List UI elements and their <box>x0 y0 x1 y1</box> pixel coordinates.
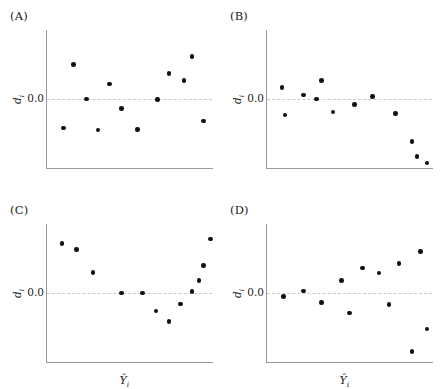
data-point <box>178 302 183 307</box>
y-axis-symbol-subscript: i <box>237 95 246 97</box>
y-axis-symbol-base: d <box>231 291 243 298</box>
plot-area <box>47 224 212 362</box>
panel-c: (C)di0.0Ŷi <box>0 194 220 389</box>
x-axis-symbol-base: Ŷ <box>120 374 127 387</box>
x-axis-symbol-subscript: i <box>127 380 129 389</box>
data-point <box>410 349 415 354</box>
data-point <box>360 266 365 271</box>
y-axis-symbol-subscript: i <box>17 289 26 291</box>
y-axis-zero-tick: 0.0 <box>247 286 264 298</box>
data-point <box>91 270 96 275</box>
data-point <box>301 93 306 98</box>
data-point <box>197 278 202 283</box>
data-point <box>96 128 101 133</box>
panel-b: (B)di0.0 <box>220 0 440 195</box>
data-point <box>393 111 398 116</box>
y-axis-label: di0.0 <box>224 286 264 301</box>
data-point <box>283 113 288 118</box>
zero-reference-line <box>47 293 212 294</box>
x-axis-symbol-base: Ŷ <box>340 374 347 387</box>
data-point <box>119 106 124 111</box>
data-point <box>377 271 382 276</box>
data-point <box>201 119 206 124</box>
y-axis-zero-tick: 0.0 <box>27 92 44 104</box>
x-axis-label: Ŷi <box>340 374 350 389</box>
zero-reference-line <box>267 293 432 294</box>
data-point <box>410 139 415 144</box>
data-point <box>347 311 352 316</box>
data-point <box>301 289 306 294</box>
residual-plots-figure: (A)di0.0(B)di0.0(C)di0.0Ŷi(D)di0.0Ŷi <box>0 0 440 389</box>
data-point <box>415 154 420 159</box>
y-axis-symbol-base: d <box>11 97 23 104</box>
data-point <box>107 82 112 87</box>
y-axis-symbol-subscript: i <box>17 95 26 97</box>
plot-area <box>267 30 432 168</box>
x-axis-label: Ŷi <box>120 374 130 389</box>
data-point <box>119 291 124 296</box>
x-axis-line <box>46 362 213 363</box>
data-point <box>167 71 172 76</box>
x-axis-line <box>266 362 433 363</box>
y-axis-zero-tick: 0.0 <box>27 286 44 298</box>
data-point <box>167 319 172 324</box>
panel-a: (A)di0.0 <box>0 0 220 195</box>
data-point <box>60 241 65 246</box>
data-point <box>135 127 140 132</box>
data-point <box>281 294 286 299</box>
zero-reference-line <box>267 99 432 100</box>
plot-area <box>267 224 432 362</box>
zero-reference-line <box>47 99 212 100</box>
y-axis-symbol-base: d <box>231 97 243 104</box>
data-point <box>280 85 285 90</box>
y-axis-symbol: di <box>11 95 26 104</box>
data-point <box>140 291 145 296</box>
data-point <box>418 249 423 254</box>
data-point <box>314 97 319 102</box>
data-point <box>208 237 213 242</box>
data-point <box>339 278 344 283</box>
y-axis-label: di0.0 <box>224 92 264 107</box>
data-point <box>331 110 336 115</box>
y-axis-zero-tick: 0.0 <box>247 92 264 104</box>
x-axis-line <box>266 168 433 169</box>
data-point <box>370 94 375 99</box>
data-point <box>319 300 324 305</box>
data-point <box>190 54 195 59</box>
data-point <box>71 62 76 67</box>
panel-label: (A) <box>10 9 28 23</box>
y-axis-symbol-subscript: i <box>237 289 246 291</box>
data-point <box>319 78 324 83</box>
data-point <box>201 263 206 268</box>
y-axis-label: di0.0 <box>4 286 44 301</box>
panel-label: (C) <box>10 203 28 217</box>
y-axis-symbol: di <box>231 289 246 298</box>
data-point <box>387 302 392 307</box>
data-point <box>155 97 160 102</box>
data-point <box>84 97 89 102</box>
y-axis-symbol: di <box>231 95 246 104</box>
data-point <box>352 102 357 107</box>
y-axis-symbol-base: d <box>11 291 23 298</box>
panel-label: (D) <box>230 203 249 217</box>
data-point <box>74 247 79 252</box>
data-point <box>425 161 430 166</box>
plot-area <box>47 30 212 168</box>
x-axis-symbol-subscript: i <box>347 380 349 389</box>
data-point <box>154 309 159 314</box>
y-axis-symbol: di <box>11 289 26 298</box>
data-point <box>61 126 66 131</box>
data-point <box>397 261 402 266</box>
data-point <box>425 327 430 332</box>
panel-d: (D)di0.0Ŷi <box>220 194 440 389</box>
data-point <box>182 78 187 83</box>
y-axis-label: di0.0 <box>4 92 44 107</box>
panel-label: (B) <box>230 9 248 23</box>
x-axis-line <box>46 168 213 169</box>
